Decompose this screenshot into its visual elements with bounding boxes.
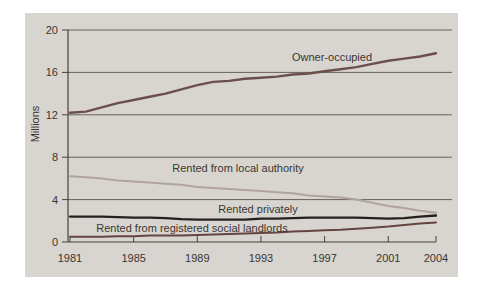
series-label-rented-privately: Rented privately	[218, 203, 298, 215]
x-tick-label-1997: 1997	[312, 252, 336, 264]
y-tick-label-0: 0	[52, 236, 58, 248]
y-tick-label-8: 8	[52, 151, 58, 163]
page: 0481216201981198519891993199720012004Mil…	[0, 0, 482, 289]
y-tick-label-4: 4	[52, 194, 58, 206]
tenure-line-chart: 0481216201981198519891993199720012004Mil…	[0, 0, 482, 289]
x-tick-label-2004: 2004	[424, 252, 448, 264]
x-tick-label-1985: 1985	[121, 252, 145, 264]
y-tick-label-12: 12	[46, 109, 58, 121]
series-label-rented-from-local-authority: Rented from local authority	[172, 162, 304, 174]
y-axis-title: Millions	[29, 105, 41, 142]
x-tick-label-1989: 1989	[185, 252, 209, 264]
series-label-rented-from-registered-social-landlords: Rented from registered social landlords	[96, 222, 288, 234]
y-tick-label-20: 20	[46, 24, 58, 36]
y-tick-label-16: 16	[46, 66, 58, 78]
x-tick-label-1993: 1993	[249, 252, 273, 264]
x-tick-label-1981: 1981	[58, 252, 82, 264]
series-label-owner-occupied: Owner-occupied	[292, 51, 372, 63]
x-tick-label-2001: 2001	[376, 252, 400, 264]
